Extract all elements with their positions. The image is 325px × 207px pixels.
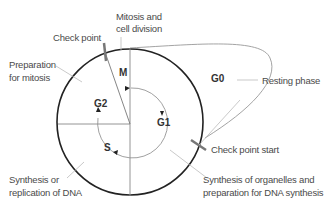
leader-organelles — [170, 150, 207, 178]
label-synthesis-dna-line2: replication of DNA — [9, 187, 82, 198]
phase-g2: G2 — [94, 98, 107, 109]
phase-s: S — [104, 142, 111, 153]
g0-loop — [130, 44, 272, 138]
arrow-head-g1 — [160, 111, 164, 116]
phase-m: M — [119, 67, 127, 78]
arrow-head-m — [125, 86, 130, 91]
label-prep-mitosis-line2: for mitosis — [9, 72, 50, 83]
label-mitosis-line1: Mitosis and — [116, 11, 162, 22]
label-prep-mitosis-line1: Preparation — [9, 59, 56, 70]
leader-check-start — [199, 100, 240, 145]
label-organelles-line2: preparation for DNA synthesis — [203, 187, 323, 198]
label-check-point-start: Check point start — [211, 144, 279, 155]
checkpoint-bar-top — [104, 43, 106, 61]
label-synthesis-dna-line1: Synthesis or — [9, 174, 59, 185]
phase-g0: G0 — [211, 73, 224, 84]
label-resting-phase: Resting phase — [262, 75, 320, 86]
leader-prep-mitosis — [56, 66, 82, 82]
label-check-point: Check point — [53, 32, 101, 43]
label-mitosis-line2: cell division — [116, 23, 162, 34]
phase-g1: G1 — [157, 117, 170, 128]
label-organelles-line1: Synthesis of organelles and — [203, 174, 314, 185]
